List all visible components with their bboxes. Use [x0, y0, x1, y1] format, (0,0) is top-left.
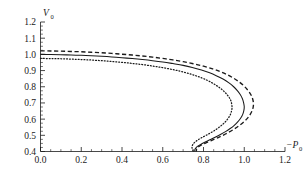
x-tick-label: 0.4 — [116, 155, 128, 165]
y-axis-title: V 0 — [43, 8, 54, 20]
x-tick-label: 0.0 — [35, 155, 47, 165]
curve-dashed — [41, 51, 254, 152]
x-axis-title-subscript: 0 — [299, 145, 302, 152]
x-tick-label: 0.2 — [75, 155, 87, 165]
x-axis-tick-labels: 0.00.20.40.60.81.01.2 — [35, 155, 292, 165]
axes — [41, 22, 286, 152]
x-axis-title-main: −P — [286, 140, 298, 150]
y-tick-label: 1.1 — [24, 34, 36, 44]
curve-solid — [41, 54, 245, 151]
y-tick-label: 0.6 — [24, 115, 36, 125]
x-tick-label: 1.0 — [238, 155, 250, 165]
y-tick-label: 0.7 — [24, 98, 36, 108]
y-tick-label: 0.9 — [24, 66, 36, 76]
y-axis-tick-labels: 0.40.50.60.70.80.91.01.11.2 — [24, 17, 36, 157]
x-tick-label: 0.8 — [198, 155, 210, 165]
y-tick-label: 0.5 — [24, 131, 36, 141]
chart-figure: 0.00.20.40.60.81.01.2 0.40.50.60.70.80.9… — [0, 0, 307, 175]
y-tick-label: 0.4 — [24, 147, 36, 157]
x-axis-ticks — [41, 147, 286, 152]
x-tick-label: 0.6 — [157, 155, 169, 165]
y-tick-label: 1.2 — [24, 17, 36, 27]
x-axis-title: −P 0 — [286, 140, 302, 152]
y-tick-label: 1.0 — [24, 50, 36, 60]
x-tick-label: 1.2 — [279, 155, 291, 165]
y-axis-ticks — [41, 22, 46, 152]
curve-dotted — [41, 58, 233, 151]
y-axis-title-main: V — [43, 8, 50, 18]
y-tick-label: 0.8 — [24, 82, 36, 92]
y-axis-title-subscript: 0 — [51, 13, 54, 20]
data-curves — [41, 51, 254, 152]
plot-canvas: 0.00.20.40.60.81.01.2 0.40.50.60.70.80.9… — [0, 0, 307, 175]
